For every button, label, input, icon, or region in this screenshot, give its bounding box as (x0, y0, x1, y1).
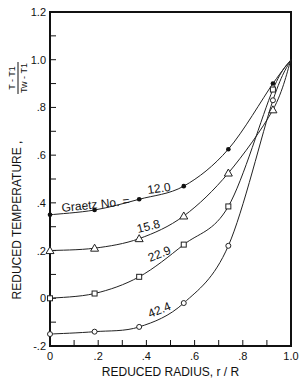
marker-square (181, 242, 186, 247)
marker-filled-circle (226, 147, 231, 152)
y-tick-label: .8 (37, 101, 46, 113)
fraction-numerator: T - T1 (7, 66, 17, 90)
chart: 0.2.4.6.81.0-.20.2.4.6.81.01.2REDUCED RA… (0, 0, 305, 388)
marker-square (48, 296, 53, 301)
marker-square (92, 291, 97, 296)
series-label-15-8: 15.8 (135, 217, 161, 236)
x-tick-label: 1.0 (283, 350, 298, 362)
marker-filled-circle (48, 212, 53, 217)
marker-square (137, 274, 142, 279)
marker-filled-circle (137, 197, 142, 202)
y-tick-label: .6 (37, 149, 46, 161)
series-label-42-4: 42.4 (146, 299, 173, 321)
y-tick-label: 0 (40, 292, 46, 304)
fraction-denominator: Tw - T1 (19, 63, 29, 93)
series-label-22-9: 22.9 (146, 243, 173, 265)
x-axis-label: REDUCED RADIUS, r / R (102, 365, 240, 379)
plot-frame (50, 12, 291, 346)
marker-square (226, 204, 231, 209)
y-tick-label: 1.2 (31, 6, 46, 18)
marker-open-circle (48, 332, 53, 337)
x-tick-label: .6 (190, 350, 199, 362)
x-tick-label: .8 (238, 350, 247, 362)
marker-open-circle (137, 324, 142, 329)
series-curve-42.4 (50, 60, 291, 334)
marker-open-circle (226, 243, 231, 248)
y-tick-label: 1.0 (31, 54, 46, 66)
marker-square (270, 87, 275, 92)
y-tick-label: .2 (37, 245, 46, 257)
series-label-12: 12.0 (146, 180, 171, 197)
marker-open-circle (181, 301, 186, 306)
y-axis-label: REDUCED TEMPERATURE , (10, 141, 24, 300)
marker-open-circle (270, 98, 275, 103)
marker-filled-circle (181, 184, 186, 189)
y-axis-fraction: T - T1Tw - T1 (7, 62, 29, 94)
series-curve-15.8 (50, 60, 291, 251)
y-tick-label: .4 (37, 197, 46, 209)
marker-triangle (180, 212, 188, 219)
x-tick-label: 0 (47, 350, 53, 362)
x-tick-label: .4 (142, 350, 151, 362)
series-curve-22.9 (50, 60, 291, 299)
marker-open-circle (92, 329, 97, 334)
x-tick-label: .2 (94, 350, 103, 362)
y-tick-label: -.2 (33, 340, 46, 352)
